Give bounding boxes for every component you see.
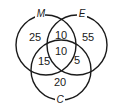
region-c-only: 20 — [54, 76, 66, 88]
set-label-e: E — [79, 8, 86, 19]
region-m-e-c: 10 — [55, 45, 67, 57]
set-label-c: C — [56, 94, 64, 105]
region-m-c: 15 — [38, 55, 50, 67]
region-e-only: 55 — [82, 31, 94, 43]
region-e-c: 5 — [74, 54, 80, 66]
region-m-only: 25 — [29, 31, 41, 43]
venn-diagram: M E C 25 55 10 10 15 5 20 — [0, 0, 118, 111]
set-label-m: M — [37, 8, 46, 19]
region-m-e: 10 — [55, 29, 67, 41]
